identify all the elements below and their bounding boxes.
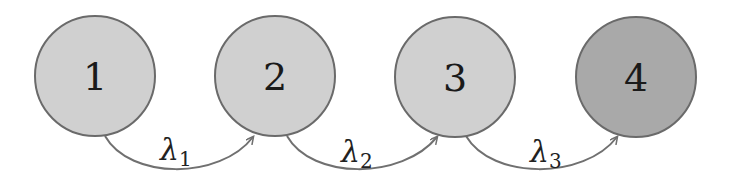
edge-label-lambda-3: λ3 xyxy=(529,134,562,173)
node-2: 2 xyxy=(215,16,335,136)
edge-3-to-4: λ3 xyxy=(466,134,617,173)
node-1: 1 xyxy=(35,16,155,136)
state-chain-diagram: λ1 λ2 λ3 1 2 3 4 xyxy=(0,0,733,183)
edge-label-lambda-2: λ2 xyxy=(340,134,373,173)
edge-label-lambda-1: λ1 xyxy=(159,132,192,171)
node-label: 3 xyxy=(443,56,467,100)
node-3: 3 xyxy=(395,17,515,137)
edge-1-to-2: λ1 xyxy=(105,132,253,171)
node-4-final: 4 xyxy=(576,17,696,137)
node-label: 4 xyxy=(624,56,648,100)
edge-2-to-3: λ2 xyxy=(287,134,437,173)
node-label: 2 xyxy=(263,55,287,99)
node-label: 1 xyxy=(83,55,107,99)
